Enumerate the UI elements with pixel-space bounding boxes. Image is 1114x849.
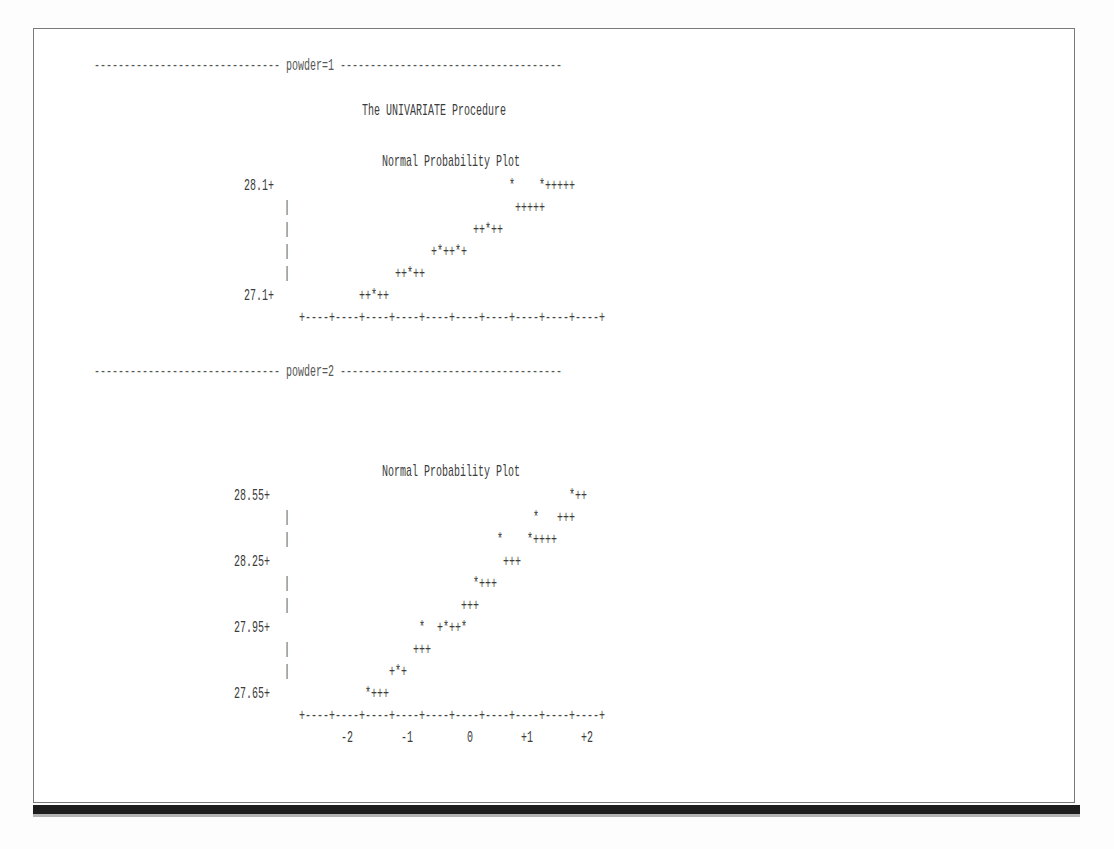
panel1-axis-bar: | (284, 243, 290, 261)
panel1-data-row: ++*++ (299, 287, 389, 305)
panel2-data-row: * +++ (299, 509, 575, 527)
panel2-ytick-4: 27.65+ (234, 685, 270, 703)
panel2-axis-bar: | (284, 641, 290, 659)
panel2-axis-bar: | (284, 663, 290, 681)
panel1-data-row: +*++*+ (299, 243, 467, 261)
panel2-x-axis: +----+----+----+----+----+----+----+----… (299, 707, 605, 725)
panel2-ytick-1: 28.55+ (234, 487, 270, 505)
panel1-data-row: * *+++++ (299, 177, 575, 195)
panel1-data-row: ++*++ (299, 265, 425, 283)
panel1-data-row: ++*++ (299, 221, 503, 239)
procedure-title: The UNIVARIATE Procedure (362, 102, 506, 120)
panel2-data-row: *+++ (299, 575, 497, 593)
panel2-x-tick-labels: -2 -1 0 +1 +2 (299, 729, 593, 747)
panel1-data-row: +++++ (299, 199, 545, 217)
page-bottom-edge-soft (33, 814, 1080, 817)
panel1-ytick-bottom: 27.1+ (244, 287, 274, 305)
panel2-data-row: +++ (299, 553, 521, 571)
panel2-data-row: *++ (299, 487, 587, 505)
panel1-axis-bar: | (284, 221, 290, 239)
panel2-plot-title: Normal Probability Plot (382, 463, 520, 481)
panel1-axis-bar: | (284, 199, 290, 217)
sas-output-frame: ------------------------------- powder=1… (33, 28, 1075, 803)
by-group-separator-1: ------------------------------- powder=1… (94, 57, 562, 75)
panel2-data-row: +*+ (299, 663, 407, 681)
panel2-axis-bar: | (284, 531, 290, 549)
panel1-axis-bar: | (284, 265, 290, 283)
panel2-axis-bar: | (284, 575, 290, 593)
panel2-ytick-2: 28.25+ (234, 553, 270, 571)
panel2-data-row: *+++ (299, 685, 389, 703)
scanned-page: ------------------------------- powder=1… (0, 0, 1114, 849)
page-bottom-edge (33, 805, 1080, 814)
panel1-x-axis: +----+----+----+----+----+----+----+----… (299, 309, 605, 327)
panel2-axis-bar: | (284, 509, 290, 527)
panel2-data-row: * +*++* (299, 619, 467, 637)
listing-text-layer: ------------------------------- powder=1… (34, 29, 1076, 804)
panel2-data-row: * *++++ (299, 531, 557, 549)
panel2-ytick-3: 27.95+ (234, 619, 270, 637)
by-group-separator-2: ------------------------------- powder=2… (94, 363, 562, 381)
panel1-ytick-top: 28.1+ (244, 177, 274, 195)
panel2-axis-bar: | (284, 597, 290, 615)
panel2-data-row: +++ (299, 641, 431, 659)
panel2-data-row: +++ (299, 597, 479, 615)
panel1-plot-title: Normal Probability Plot (382, 153, 520, 171)
